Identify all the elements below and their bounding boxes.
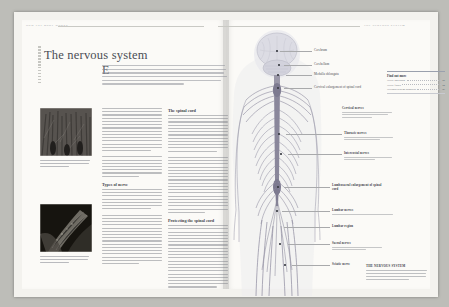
label-thoracic-nerves-note — [344, 137, 396, 141]
label-sacral-nerves-note — [332, 247, 384, 251]
find-out-more-heading: Find out more — [387, 74, 445, 78]
leader-cerebellum — [284, 65, 312, 66]
leader-dots — [407, 80, 441, 81]
body-column-a: Types of nerve — [102, 108, 162, 266]
intro-paragraph: E — [102, 65, 230, 87]
nerve-fibre-micrograph — [40, 204, 92, 252]
leader-dots — [417, 89, 440, 90]
marker-cerebrum — [276, 50, 278, 52]
column-a-paragraph-1 — [102, 108, 162, 151]
label-intercostal-nerves-note — [344, 157, 396, 161]
leader-medulla — [286, 75, 312, 76]
find-out-more-row[interactable]: Nervous system disorders 46 — [387, 88, 445, 91]
label-thoracic-nerves: Thoracic nerves — [344, 131, 396, 135]
figure-caption-heading: THE NERVOUS SYSTEM — [366, 264, 428, 268]
leader-cervical-enlargement — [284, 88, 312, 89]
column-a-paragraph-3 — [102, 215, 162, 265]
find-out-more-title: Nerve and brain — [387, 79, 405, 82]
leader-lumbosacral — [284, 187, 330, 188]
book-spread: HOW THE BODY WORKS THE NERVOUS SYSTEM Th… — [14, 12, 438, 297]
find-out-more-title: Nervous system disorders — [387, 88, 416, 91]
label-medulla-oblongata: Medulla oblongata — [314, 72, 339, 76]
label-cervical-nerves: Cervical nerves — [342, 106, 394, 110]
label-intercostal-nerves-group: Intercostal nerves — [344, 151, 396, 160]
label-cerebrum: Cerebrum — [314, 48, 327, 52]
marker-cerebellum — [278, 64, 280, 66]
leader-sacral — [288, 244, 330, 245]
page-thumb-index — [38, 46, 41, 80]
nerve-cells-caption — [40, 160, 92, 169]
column-b-paragraph-2 — [168, 157, 228, 213]
leader-intercostal — [288, 154, 342, 155]
label-cervical-enlargement: Cervical enlargement of spinal cord — [314, 85, 361, 89]
leader-dots — [402, 84, 440, 85]
marker-sacral — [279, 243, 281, 245]
label-sacral-nerves-group: Sacral nerves — [332, 241, 384, 250]
subheading-types-of-nerve: Types of nerve — [102, 182, 162, 187]
label-lumbar-region: Lumbar region — [332, 224, 353, 228]
find-out-more-row[interactable]: Nerve fibres 44 — [387, 84, 445, 87]
marker-intercostal — [280, 153, 282, 155]
body-column-b: The spinal cord Protecting the spinal co… — [168, 108, 228, 290]
label-cerebellum: Cerebellum — [314, 62, 329, 66]
subheading-the-spinal-cord: The spinal cord — [168, 108, 228, 113]
marker-lumbosacral — [277, 186, 279, 188]
right-running-head: THE NERVOUS SYSTEM — [364, 24, 405, 27]
scanned-page-background: HOW THE BODY WORKS THE NERVOUS SYSTEM Th… — [0, 0, 449, 307]
label-lumbar-nerves-group: Lumbar nerves — [332, 208, 394, 215]
marker-thoracic — [278, 133, 280, 135]
label-lumbosacral-enlargement: Lumbosacral enlargement of spinal cord — [332, 183, 384, 191]
marker-cervical-enlargement — [277, 87, 279, 89]
leader-lumbar-region — [284, 227, 330, 228]
leader-lumbar-nerves — [282, 211, 330, 212]
marker-sciatic — [284, 264, 286, 266]
find-out-more-box: Find out more Nerve and brain 42 Nerve f… — [387, 71, 445, 94]
label-sacral-nerves: Sacral nerves — [332, 241, 384, 245]
label-sciatic-nerve: Sciatic nerve — [332, 262, 350, 266]
find-out-more-page: 44 — [442, 84, 445, 87]
nerve-cells-micrograph — [40, 108, 92, 156]
subheading-protecting-the-spinal-cord: Protecting the spinal cord — [168, 218, 228, 223]
find-out-more-row[interactable]: Nerve and brain 42 — [387, 79, 445, 82]
figure-caption: THE NERVOUS SYSTEM — [366, 264, 428, 282]
marker-lumbar — [276, 210, 278, 212]
leader-cerebrum — [280, 51, 312, 52]
column-a-paragraph-2 — [102, 189, 162, 210]
label-intercostal-nerves: Intercostal nerves — [344, 151, 396, 155]
page-title: The nervous system — [44, 48, 148, 63]
label-cervical-nerves-note — [342, 112, 394, 118]
column-b-paragraph-3 — [168, 225, 228, 288]
nerve-fibre-caption — [40, 256, 92, 265]
right-head-rule — [218, 26, 360, 27]
label-lumbar-nerves-note — [332, 214, 394, 215]
label-thoracic-nerves-group: Thoracic nerves — [344, 131, 396, 140]
marker-medulla — [277, 74, 279, 76]
label-lumbar-nerves: Lumbar nerves — [332, 208, 394, 212]
column-b-paragraph-1 — [168, 115, 228, 152]
leader-thoracic — [286, 134, 342, 135]
leader-sciatic — [292, 265, 330, 266]
label-cervical-nerves-group: Cervical nerves — [342, 106, 394, 118]
column-a-paragraph-1b — [102, 156, 162, 177]
left-head-rule — [58, 26, 204, 27]
find-out-more-title: Nerve fibres — [387, 84, 401, 87]
find-out-more-page: 42 — [442, 79, 445, 82]
find-out-more-page: 46 — [442, 88, 445, 91]
